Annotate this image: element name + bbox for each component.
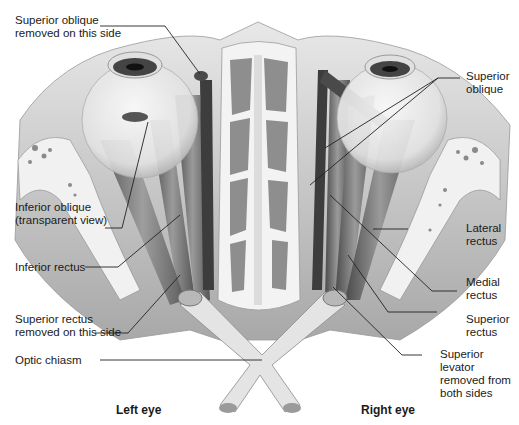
label-superior-levator: Superior levator removed from both sides (440, 348, 511, 400)
trochlea-left (194, 71, 208, 81)
label-line: Superior rectus (15, 313, 121, 326)
label-superior-rectus-removed: Superior rectus removed on this side (15, 313, 121, 339)
label-line: Medial (466, 276, 500, 289)
label-superior-oblique: Superior oblique (466, 70, 509, 96)
label-line: Superior (440, 348, 511, 361)
label-line: levator (440, 361, 511, 374)
label-line: removed on this side (15, 326, 121, 339)
label-line: Superior oblique (15, 14, 121, 27)
caption-right-eye: Right eye (361, 404, 415, 417)
caption-left-eye: Left eye (116, 404, 161, 417)
label-inferior-rectus: Inferior rectus (15, 261, 85, 274)
label-line: (transparent view) (15, 214, 107, 227)
label-lateral-rectus: Lateral rectus (466, 222, 501, 248)
label-line: both sides (440, 387, 511, 400)
label-superior-oblique-removed: Superior oblique removed on this side (15, 14, 121, 40)
label-line: Lateral (466, 222, 501, 235)
label-optic-chiasm: Optic chiasm (15, 354, 81, 367)
label-medial-rectus: Medial rectus (466, 276, 500, 302)
label-line: rectus (466, 326, 509, 339)
label-line: oblique (466, 83, 509, 96)
label-line: Inferior rectus (15, 261, 85, 274)
label-line: removed on this side (15, 27, 121, 40)
label-line: rectus (466, 235, 501, 248)
label-line: Superior (466, 313, 509, 326)
label-line: removed from (440, 374, 511, 387)
label-inferior-oblique: Inferior oblique (transparent view) (15, 201, 107, 227)
label-line: Optic chiasm (15, 354, 81, 367)
ethmoid-septum (218, 42, 300, 311)
label-line: Inferior oblique (15, 201, 107, 214)
label-superior-rectus: Superior rectus (466, 313, 509, 339)
label-line: rectus (466, 289, 500, 302)
label-line: Superior (466, 70, 509, 83)
